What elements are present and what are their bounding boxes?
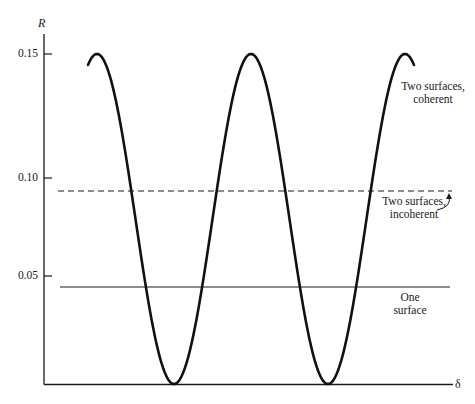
label-incoherent: Two surfaces, incoherent [374, 195, 454, 221]
label-one-surface: One surface [370, 291, 450, 317]
x-axis-label: δ [455, 377, 461, 392]
label-coherent-line1: Two surfaces, [393, 80, 473, 93]
label-incoherent-line2: incoherent [374, 208, 454, 221]
tick-label-005: 0.05 [4, 269, 38, 281]
label-one-line1: One [370, 291, 450, 304]
label-one-line2: surface [370, 304, 450, 317]
coherent-curve [88, 54, 414, 384]
tick-label-010: 0.10 [4, 171, 38, 183]
label-incoherent-line1: Two surfaces, [374, 195, 454, 208]
label-coherent: Two surfaces, coherent [393, 80, 473, 106]
label-coherent-line2: coherent [393, 93, 473, 106]
y-axis-label: R [38, 16, 45, 31]
tick-label-015: 0.15 [4, 47, 38, 59]
